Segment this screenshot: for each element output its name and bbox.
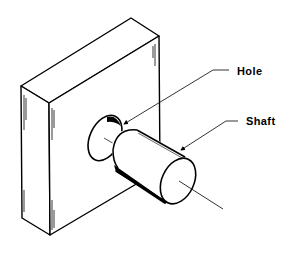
shaft-leader <box>181 121 238 150</box>
shaft <box>112 129 223 209</box>
diagram-canvas: Hole Shaft <box>0 0 296 253</box>
block <box>21 18 160 235</box>
block-side-face <box>21 86 50 235</box>
shaft-label: Shaft <box>246 115 276 127</box>
hole-label: Hole <box>237 65 262 77</box>
